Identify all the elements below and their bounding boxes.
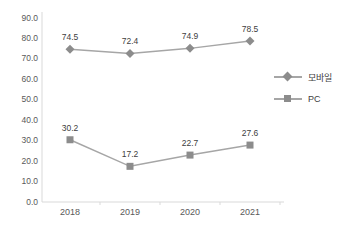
data-label: 74.9	[182, 31, 199, 41]
y-axis-tick-label: 90.0	[21, 13, 38, 23]
square-marker	[247, 142, 254, 149]
x-axis-category-label: 2019	[120, 207, 140, 217]
square-marker	[127, 163, 134, 170]
square-marker	[187, 152, 194, 159]
data-label: 27.6	[242, 128, 259, 138]
y-axis-tick-label: 20.0	[21, 156, 38, 166]
diamond-marker	[186, 44, 195, 53]
line-chart-svg: 0.010.020.030.040.050.060.070.080.090.02…	[0, 0, 338, 237]
legend-item-pc: PC	[274, 88, 332, 110]
data-label: 30.2	[62, 123, 79, 133]
data-label: 17.2	[122, 149, 139, 159]
y-axis-tick-label: 50.0	[21, 94, 38, 104]
pc-square-marker-icon	[274, 94, 302, 104]
data-label: 72.4	[122, 36, 139, 46]
y-axis-tick-label: 30.0	[21, 135, 38, 145]
chart-area: 0.010.020.030.040.050.060.070.080.090.02…	[0, 0, 338, 237]
legend-item-mobile: 모바일	[274, 66, 332, 88]
series-line-모바일	[70, 41, 250, 53]
legend-label-pc: PC	[308, 94, 321, 104]
diamond-marker	[246, 37, 255, 46]
data-label: 74.5	[62, 32, 79, 42]
data-label: 22.7	[182, 138, 199, 148]
mobile-diamond-marker-icon	[274, 72, 302, 82]
y-axis-tick-label: 40.0	[21, 115, 38, 125]
x-axis-category-label: 2021	[240, 207, 260, 217]
y-axis-tick-label: 0.0	[26, 197, 38, 207]
x-axis-category-label: 2020	[180, 207, 200, 217]
y-axis-tick-label: 70.0	[21, 53, 38, 63]
x-axis-category-label: 2018	[60, 207, 80, 217]
y-axis-tick-label: 10.0	[21, 176, 38, 186]
legend: 모바일 PC	[274, 66, 332, 110]
legend-label-mobile: 모바일	[308, 71, 332, 84]
data-label: 78.5	[242, 24, 259, 34]
square-marker	[67, 136, 74, 143]
series-line-PC	[70, 140, 250, 167]
y-axis-tick-label: 80.0	[21, 33, 38, 43]
y-axis-tick-label: 60.0	[21, 74, 38, 84]
diamond-marker	[66, 45, 75, 54]
diamond-marker	[126, 49, 135, 58]
